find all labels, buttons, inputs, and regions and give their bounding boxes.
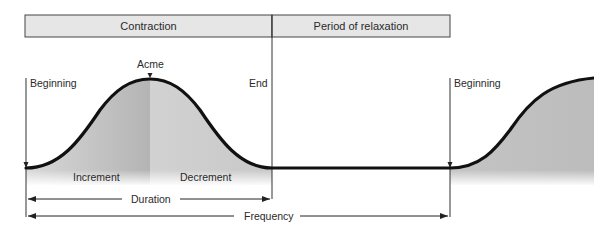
end-label: End [249,77,268,89]
relaxation-header: Period of relaxation [272,15,450,37]
duration-label: Duration [131,193,171,205]
acme-marker-icon [148,73,153,78]
beginning-right-label: Beginning [454,77,501,89]
increment-area [26,79,150,185]
contraction-header: Contraction [25,15,272,37]
decrement-label: Decrement [180,171,231,183]
decrement-area [150,79,272,185]
beginning-left-label: Beginning [30,77,77,89]
next-contraction-area [450,78,594,185]
frequency-label: Frequency [244,210,294,222]
acme-label: Acme [137,58,164,70]
increment-label: Increment [73,171,120,183]
